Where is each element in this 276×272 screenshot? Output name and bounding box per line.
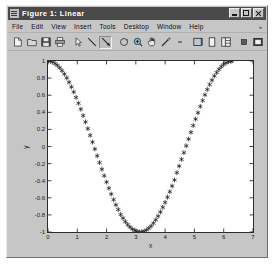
plot-browser-icon[interactable] bbox=[219, 36, 232, 49]
figure-canvas[interactable]: -1-0.8-0.6-0.4-0.200.20.40.60.81 0123456… bbox=[8, 51, 266, 257]
x-tick-label: 2 bbox=[105, 234, 108, 240]
y-tick-label: -0.8 bbox=[35, 212, 45, 218]
x-axis-label: x bbox=[149, 242, 152, 249]
pan-icon[interactable] bbox=[145, 36, 158, 49]
y-tick-label: 1 bbox=[42, 58, 45, 64]
y-tick-label: -0.4 bbox=[35, 178, 45, 184]
insert-line-icon[interactable] bbox=[85, 36, 98, 49]
title-bar: Figure 1: Linear bbox=[8, 7, 266, 20]
y-tick-label: 0 bbox=[42, 144, 45, 150]
new-figure-icon[interactable] bbox=[11, 36, 24, 49]
toolbar-dropdown-icon[interactable] bbox=[173, 36, 186, 49]
window-title: Figure 1: Linear bbox=[22, 9, 85, 18]
y-tick-label: 0.4 bbox=[37, 109, 45, 115]
x-tick-label: 7 bbox=[251, 234, 254, 240]
y-tick-label: 0.6 bbox=[37, 92, 45, 98]
menu-item-edit[interactable]: Edit bbox=[27, 23, 47, 30]
hide-plot-tools-icon[interactable] bbox=[237, 36, 250, 49]
show-plot-tools-icon[interactable] bbox=[251, 36, 264, 49]
x-tick-label: 1 bbox=[76, 234, 79, 240]
x-tick-label: 4 bbox=[163, 234, 166, 240]
plot-axes[interactable]: -1-0.8-0.6-0.4-0.200.20.40.60.81 0123456… bbox=[47, 60, 254, 233]
plot-series-cos bbox=[48, 61, 253, 232]
y-axis-label: y bbox=[22, 145, 29, 148]
menu-item-tools[interactable]: Tools bbox=[96, 23, 120, 30]
toolbar bbox=[8, 34, 266, 51]
insert-arrow-icon[interactable] bbox=[99, 36, 112, 49]
rotate-3d-icon[interactable] bbox=[117, 36, 130, 49]
y-tick-label: -1 bbox=[40, 229, 45, 235]
insert-legend-icon[interactable] bbox=[205, 36, 218, 49]
zoom-in-icon[interactable] bbox=[131, 36, 144, 49]
y-tick-label: -0.2 bbox=[35, 161, 45, 167]
y-tick-label: -0.6 bbox=[35, 195, 45, 201]
save-figure-icon[interactable] bbox=[39, 36, 52, 49]
data-cursor-icon[interactable] bbox=[159, 36, 172, 49]
x-tick-label: 6 bbox=[222, 234, 225, 240]
insert-colorbar-icon[interactable] bbox=[191, 36, 204, 49]
close-button[interactable] bbox=[253, 8, 264, 18]
menu-item-help[interactable]: Help bbox=[185, 23, 207, 30]
y-tick-label: 0.8 bbox=[37, 75, 45, 81]
window-controls bbox=[229, 8, 264, 18]
figure-window: Figure 1: Linear File Edit View Insert T… bbox=[6, 5, 268, 258]
menu-item-file[interactable]: File bbox=[8, 23, 27, 30]
x-tick-label: 0 bbox=[46, 234, 49, 240]
open-file-icon[interactable] bbox=[25, 36, 38, 49]
menu-item-window[interactable]: Window bbox=[153, 23, 185, 30]
x-tick-label: 3 bbox=[134, 234, 137, 240]
x-tick-label: 5 bbox=[193, 234, 196, 240]
y-tick-label: 0.2 bbox=[37, 126, 45, 132]
menu-overflow-icon[interactable]: » bbox=[259, 24, 262, 30]
minimize-button[interactable] bbox=[229, 8, 240, 18]
print-figure-icon[interactable] bbox=[53, 36, 66, 49]
menu-item-insert[interactable]: Insert bbox=[70, 23, 95, 30]
edit-plot-arrow-icon[interactable] bbox=[71, 36, 84, 49]
maximize-button[interactable] bbox=[241, 8, 252, 18]
figure-window-icon bbox=[10, 9, 19, 18]
menu-bar: File Edit View Insert Tools Desktop Wind… bbox=[8, 21, 266, 33]
menu-item-desktop[interactable]: Desktop bbox=[120, 23, 153, 30]
screenshot-root: Figure 1: Linear File Edit View Insert T… bbox=[0, 0, 276, 272]
menu-item-view[interactable]: View bbox=[47, 23, 70, 30]
